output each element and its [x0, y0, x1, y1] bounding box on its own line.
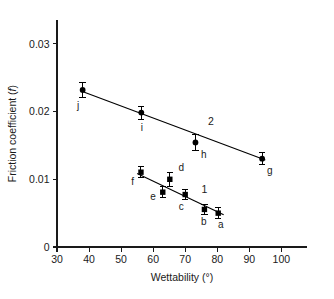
- data-point-d[interactable]: [167, 177, 172, 182]
- data-point-label-c: c: [179, 201, 184, 212]
- data-point-a[interactable]: [216, 210, 221, 215]
- data-point-c[interactable]: [183, 192, 188, 197]
- y-tick-label: 0: [44, 241, 50, 253]
- data-point-g[interactable]: [259, 156, 265, 162]
- data-point-label-g: g: [267, 165, 273, 176]
- data-point-label-d: d: [179, 162, 185, 173]
- scatter-plot: 00.010.020.0330405060708090100Wettabilit…: [0, 0, 334, 299]
- x-tick-label: 30: [51, 253, 63, 265]
- data-point-label-h: h: [201, 149, 207, 160]
- x-tick-label: 90: [243, 253, 255, 265]
- data-point-j[interactable]: [80, 87, 86, 93]
- x-tick-label: 50: [115, 253, 127, 265]
- data-point-b[interactable]: [202, 207, 207, 212]
- data-point-h[interactable]: [193, 140, 199, 146]
- data-point-label-a: a: [218, 219, 224, 230]
- x-axis-title: Wettability (°): [151, 271, 213, 283]
- series-label-1: 1: [202, 183, 208, 195]
- series-label-2: 2: [208, 115, 214, 127]
- y-axis-title: Friction coefficient (f): [6, 85, 18, 182]
- chart-figure: 00.010.020.0330405060708090100Wettabilit…: [0, 0, 334, 299]
- data-point-e[interactable]: [160, 189, 165, 194]
- x-tick-label: 40: [83, 253, 95, 265]
- data-point-label-j: j: [76, 100, 79, 111]
- data-point-label-i: i: [141, 122, 143, 133]
- y-tick-label: 0.02: [29, 105, 50, 117]
- y-tick-label: 0.03: [29, 38, 50, 50]
- x-tick-label: 60: [147, 253, 159, 265]
- data-point-f[interactable]: [138, 169, 143, 174]
- data-point-label-b: b: [201, 216, 207, 227]
- data-point-label-f: f: [131, 176, 134, 187]
- data-point-label-e: e: [150, 191, 156, 202]
- x-tick-label: 70: [179, 253, 191, 265]
- fit-line-series-2: [81, 91, 265, 160]
- x-tick-label: 80: [211, 253, 223, 265]
- y-tick-label: 0.01: [29, 173, 50, 185]
- data-point-i[interactable]: [138, 110, 144, 116]
- x-tick-label: 100: [273, 253, 291, 265]
